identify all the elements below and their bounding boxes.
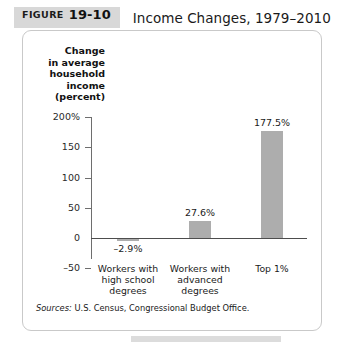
figure-number-badge: FIGURE 19-10 [14, 7, 120, 28]
y-axis-tick-label: –50 [34, 263, 80, 273]
x-axis-category-line: Workers with [91, 263, 165, 274]
x-axis-category-line: degrees [91, 285, 165, 296]
x-axis-category-line: Workers with [163, 263, 237, 274]
bar [189, 221, 211, 238]
y-axis-tick-label: 200% [34, 112, 80, 122]
figure-label-word: FIGURE [22, 9, 64, 20]
x-axis-category-label: Workers withadvanceddegrees [163, 263, 237, 296]
bar [117, 239, 139, 241]
y-axis-tick-label: 0 [34, 233, 80, 243]
source-label: Sources: [36, 303, 72, 313]
y-axis-tick [85, 117, 91, 118]
y-axis-tick-label: 150 [34, 142, 80, 152]
figure-title: Income Changes, 1979–2010 [133, 10, 331, 26]
x-axis-category-line: high school [91, 274, 165, 285]
figure-panel: Changein averagehouseholdincome(percent)… [22, 30, 322, 331]
bar-value-label: –2.9% [114, 244, 143, 254]
bar-item: –2.9%Workers withhigh schooldegrees [93, 31, 163, 293]
y-axis-tick-label: 100 [34, 173, 80, 183]
bar-value-label: 27.6% [185, 208, 215, 218]
bar-item: 177.5%Top 1% [237, 31, 307, 293]
x-axis-category-line: advanced [163, 274, 237, 285]
source-text: U.S. Census, Congressional Budget Office… [74, 303, 249, 313]
y-axis-tick [85, 208, 91, 209]
y-axis-tick-label: 50 [34, 203, 80, 213]
source-note: Sources: U.S. Census, Congressional Budg… [36, 303, 249, 313]
x-axis-category-line: Top 1% [235, 263, 309, 274]
y-axis-tick [85, 147, 91, 148]
bar [261, 131, 283, 238]
bar-value-label: 177.5% [254, 118, 290, 128]
chart-plot-area: Changein averagehouseholdincome(percent)… [23, 31, 323, 293]
bar-item: 27.6%Workers withadvanceddegrees [165, 31, 235, 293]
figure-label-number: 19-10 [69, 7, 111, 22]
y-axis-tick [85, 178, 91, 179]
x-axis-category-line: degrees [163, 285, 237, 296]
page-bottom-strip [131, 336, 281, 342]
x-axis-category-label: Top 1% [235, 263, 309, 274]
x-axis-category-label: Workers withhigh schooldegrees [91, 263, 165, 296]
figure-header: FIGURE 19-10 Income Changes, 1979–2010 [14, 7, 331, 28]
